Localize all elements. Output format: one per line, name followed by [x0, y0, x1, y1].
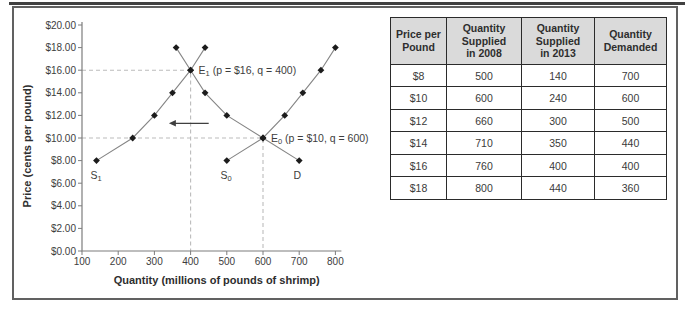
- table-cell: 710: [447, 132, 522, 155]
- y-tick-label: $2.00: [51, 223, 76, 234]
- series-label-S0: S0: [220, 169, 231, 183]
- table-row: $12660300500: [391, 109, 667, 132]
- y-tick-label: $8.00: [51, 155, 76, 166]
- x-tick-label: 500: [218, 256, 235, 267]
- table-head: Price per PoundQuantity Supplied in 2008…: [391, 18, 667, 65]
- table-cell: 360: [595, 177, 667, 200]
- data-marker: [332, 44, 339, 51]
- table-row: $14710350440: [391, 132, 667, 155]
- table-cell: $8: [391, 64, 447, 87]
- table-cell: 440: [522, 177, 595, 200]
- series-label-S1: S1: [91, 169, 102, 183]
- table-header-cell: Quantity Demanded: [595, 18, 667, 65]
- y-tick-label: $10.00: [45, 133, 76, 144]
- y-tick-label: $16.00: [45, 65, 76, 76]
- x-tick-label: 400: [182, 256, 199, 267]
- data-marker: [202, 44, 209, 51]
- y-tick-label: $14.00: [45, 87, 76, 98]
- y-tick-label: $20.00: [45, 20, 76, 31]
- x-tick-label: 800: [327, 256, 344, 267]
- table-cell: 660: [447, 109, 522, 132]
- shrimp-table: Price per PoundQuantity Supplied in 2008…: [390, 17, 667, 200]
- table-cell: 400: [595, 154, 667, 177]
- table-cell: $12: [391, 109, 447, 132]
- data-marker: [223, 157, 230, 164]
- x-tick-label: 600: [255, 256, 272, 267]
- table-cell: 300: [522, 109, 595, 132]
- table-row: $10600240600: [391, 87, 667, 110]
- table-cell: $16: [391, 154, 447, 177]
- table-body: $8500140700$10600240600$12660300500$1471…: [391, 64, 667, 199]
- table-cell: 800: [447, 177, 522, 200]
- table-cell: 400: [522, 154, 595, 177]
- table-cell: 600: [595, 87, 667, 110]
- y-tick-label: $4.00: [51, 200, 76, 211]
- data-marker: [93, 157, 100, 164]
- series-line-S1: [96, 48, 205, 161]
- y-tick-label: $18.00: [45, 42, 76, 53]
- table-cell: 240: [522, 87, 595, 110]
- table-cell: 500: [595, 109, 667, 132]
- table-cell: $18: [391, 177, 447, 200]
- table-cell: 700: [595, 64, 667, 87]
- table-cell: $10: [391, 87, 447, 110]
- table-cell: $14: [391, 132, 447, 155]
- x-tick-label: 300: [146, 256, 163, 267]
- series-label-D: D: [294, 169, 302, 181]
- table-cell: 350: [522, 132, 595, 155]
- data-marker: [296, 157, 303, 164]
- data-marker: [173, 44, 180, 51]
- table-header-row: Price per PoundQuantity Supplied in 2008…: [391, 18, 667, 65]
- y-tick-label: $12.00: [45, 110, 76, 121]
- x-tick-label: 700: [291, 256, 308, 267]
- table-row: $8500140700: [391, 64, 667, 87]
- y-tick-label: $6.00: [51, 178, 76, 189]
- table-header-cell: Price per Pound: [391, 18, 447, 65]
- shift-left-arrowhead: [169, 120, 176, 126]
- figure-page: $0.00$2.00$4.00$6.00$8.00$10.00$12.00$14…: [0, 0, 685, 310]
- table-header-cell: Quantity Supplied in 2013: [522, 18, 595, 65]
- equilibrium-label-E0: E0 (p = $10, q = 600): [271, 132, 369, 146]
- table-cell: 500: [447, 64, 522, 87]
- equilibrium-label-E1: E1 (p = $16, q = 400): [199, 64, 297, 78]
- y-axis-title: Price (cents per pound): [21, 84, 33, 207]
- table-cell: 440: [595, 132, 667, 155]
- x-tick-label: 200: [110, 256, 127, 267]
- table-row: $18800440360: [391, 177, 667, 200]
- table-header-cell: Quantity Supplied in 2008: [447, 18, 522, 65]
- y-tick-label: $0.00: [51, 246, 76, 257]
- table-cell: 140: [522, 64, 595, 87]
- x-axis-title: Quantity (millions of pounds of shrimp): [114, 274, 320, 286]
- table-cell: 600: [447, 87, 522, 110]
- x-tick-label: 100: [74, 256, 91, 267]
- table-cell: 760: [447, 154, 522, 177]
- table-row: $16760400400: [391, 154, 667, 177]
